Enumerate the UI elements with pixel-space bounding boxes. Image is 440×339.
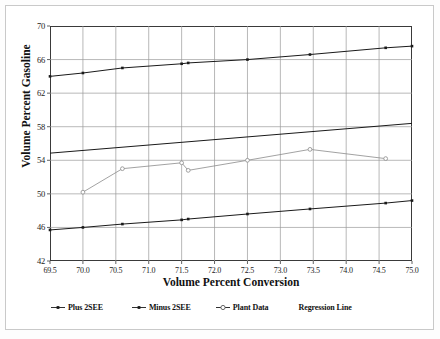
axis-ticks [47,26,412,264]
chart-figure: 4246505458626670 69.570.070.571.071.572.… [0,0,440,339]
x-tick-label: 72.0 [200,266,230,275]
legend-label: Regression Line [299,303,352,312]
x-tick-label: 73.5 [298,266,328,275]
x-tick-label: 72.5 [232,266,262,275]
chart-legend: Plus 2SEEMinus 2SEEPlant DataRegression … [50,303,412,312]
series-plus-2see [49,45,414,78]
x-tick-label: 75.0 [397,266,427,275]
y-tick-label: 46 [23,222,45,232]
legend-label: Plant Data [233,303,269,312]
legend-item-plant-data[interactable]: Plant Data [215,303,269,312]
legend-symbol-icon [131,303,147,312]
legend-label: Plus 2SEE [68,303,103,312]
x-axis-title: Volume Percent Conversion [50,276,412,288]
legend-item-plus-2see[interactable]: Plus 2SEE [50,303,103,312]
x-tick-label: 69.5 [35,266,65,275]
legend-symbol-icon [50,303,66,312]
series-minus-2see [49,199,414,231]
y-axis-title: Volume Percent Gasoline [20,16,32,196]
chart-canvas [0,0,440,339]
x-tick-label: 74.0 [331,266,361,275]
x-tick-label: 70.0 [68,266,98,275]
x-tick-label: 73.0 [265,266,295,275]
x-tick-label: 74.5 [364,266,394,275]
series-regression-line [50,123,412,153]
x-tick-label: 71.0 [134,266,164,275]
legend-item-regression-line[interactable]: Regression Line [297,303,352,312]
legend-item-minus-2see[interactable]: Minus 2SEE [131,303,191,312]
legend-label: Minus 2SEE [149,303,191,312]
x-tick-label: 70.5 [101,266,131,275]
series-plant-data [81,147,388,194]
legend-symbol-icon [215,303,231,312]
y-tick-label: 42 [23,256,45,266]
x-tick-label: 71.5 [167,266,197,275]
series-layer [49,45,414,231]
